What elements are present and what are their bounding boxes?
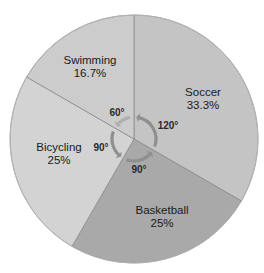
basketball-name: Basketball (135, 204, 188, 216)
pie-slices (10, 15, 258, 263)
angle-label-basketball: 90° (131, 164, 146, 175)
swimming-name: Swimming (63, 54, 116, 66)
bicycling-name: Bicycling (36, 141, 81, 153)
angle-label-soccer: 120° (158, 120, 179, 131)
swimming-percent: 16.7% (74, 67, 107, 79)
slice-label-soccer: Soccer 33.3% (185, 86, 221, 111)
angle-label-bicycling: 90° (93, 142, 108, 153)
bicycling-percent: 25% (47, 154, 70, 166)
soccer-percent: 33.3% (187, 99, 220, 111)
angle-label-swimming: 60° (109, 107, 124, 118)
soccer-name: Soccer (185, 86, 221, 98)
basketball-percent: 25% (150, 217, 173, 229)
pie-chart: Soccer 33.3% Basketball 25% Bicycling 25… (0, 0, 264, 273)
